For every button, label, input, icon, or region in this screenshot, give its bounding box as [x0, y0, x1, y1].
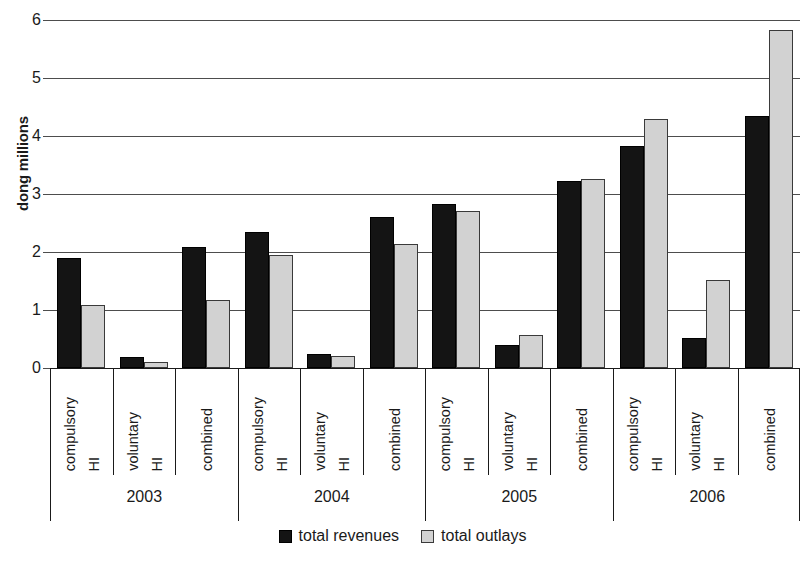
bar-outlays-8	[581, 179, 605, 368]
bar-revenues-9	[620, 146, 644, 368]
category-cell-2006-voluntary: voluntaryHI	[676, 369, 739, 475]
year-cell-2004: 2004	[239, 475, 427, 521]
bar-outlays-7	[519, 335, 543, 368]
category-label-primary: combined	[200, 408, 215, 471]
y-tick-mark-6	[43, 20, 50, 21]
category-cell-2003-voluntary: voluntaryHI	[114, 369, 177, 475]
y-tick-mark-2	[43, 252, 50, 253]
category-label-primary: voluntary	[688, 412, 703, 471]
bar-revenues-11	[745, 116, 769, 368]
bar-revenues-7	[495, 345, 519, 368]
y-tick-mark-4	[43, 136, 50, 137]
bar-outlays-10	[706, 280, 730, 368]
category-cell-2005-combined: combined	[551, 369, 614, 475]
category-cell-2004-voluntary: voluntaryHI	[301, 369, 364, 475]
category-label-secondary: HI	[87, 457, 102, 472]
category-label-primary: combined	[575, 408, 590, 471]
category-label-secondary: HI	[712, 457, 727, 472]
y-tick-mark-5	[43, 78, 50, 79]
category-cell-2003-combined: combined	[176, 369, 239, 475]
bar-revenues-3	[245, 232, 269, 368]
category-label-secondary: HI	[525, 457, 540, 472]
bar-revenues-1	[120, 357, 144, 368]
category-cell-2006-compulsory: compulsoryHI	[614, 369, 677, 475]
year-label: 2006	[689, 489, 725, 507]
year-cell-2003: 2003	[51, 475, 239, 521]
chart-legend: total revenuestotal outlays	[0, 528, 805, 544]
category-label-primary: voluntary	[126, 412, 141, 471]
category-label-band: compulsoryHIvoluntaryHIcombinedcompulsor…	[50, 368, 800, 475]
y-tick-label-2: 2	[32, 244, 41, 260]
category-label-primary: compulsory	[251, 397, 266, 471]
category-cell-2005-compulsory: compulsoryHI	[426, 369, 489, 475]
y-tick-label-5: 5	[32, 70, 41, 86]
y-tick-mark-0	[43, 368, 50, 369]
category-cell-2005-voluntary: voluntaryHI	[489, 369, 552, 475]
category-label-secondary: HI	[150, 457, 165, 472]
y-tick-label-0: 0	[32, 360, 41, 376]
year-label-band: 2003200420052006	[50, 475, 800, 521]
year-label: 2005	[501, 489, 537, 507]
legend-label: total revenues	[299, 528, 400, 544]
bar-outlays-5	[394, 244, 418, 368]
year-label: 2004	[314, 489, 350, 507]
legend-item-total-revenues[interactable]: total revenues	[279, 528, 400, 544]
bar-revenues-0	[57, 258, 81, 368]
y-tick-label-4: 4	[32, 128, 41, 144]
y-tick-label-1: 1	[32, 302, 41, 318]
year-cell-2006: 2006	[614, 475, 802, 521]
category-cell-2004-combined: combined	[364, 369, 427, 475]
category-label-primary: voluntary	[313, 412, 328, 471]
bar-outlays-3	[269, 255, 293, 368]
y-axis-title: dong millions	[14, 94, 31, 234]
bar-outlays-11	[769, 30, 793, 368]
bar-outlays-9	[644, 119, 668, 368]
bar-revenues-6	[432, 204, 456, 368]
bar-revenues-2	[182, 247, 206, 368]
year-cell-2005: 2005	[426, 475, 614, 521]
bar-outlays-2	[206, 300, 230, 368]
category-cell-2006-combined: combined	[739, 369, 802, 475]
legend-item-total-outlays[interactable]: total outlays	[421, 528, 526, 544]
category-label-primary: compulsory	[626, 397, 641, 471]
y-tick-mark-1	[43, 310, 50, 311]
y-tick-label-3: 3	[32, 186, 41, 202]
y-tick-mark-3	[43, 194, 50, 195]
bar-revenues-8	[557, 181, 581, 368]
legend-swatch-icon	[421, 530, 434, 543]
bar-outlays-0	[81, 305, 105, 368]
legend-swatch-icon	[279, 530, 292, 543]
bar-revenues-4	[307, 354, 331, 369]
bar-revenues-5	[370, 217, 394, 368]
bar-chart: dong millions 6543210 compulsoryHIvolunt…	[0, 0, 805, 562]
y-tick-label-6: 6	[32, 12, 41, 28]
bar-outlays-6	[456, 211, 480, 368]
bar-revenues-10	[682, 338, 706, 368]
category-label-primary: compulsory	[438, 397, 453, 471]
category-label-primary: compulsory	[63, 397, 78, 471]
plot-area: 6543210	[50, 20, 800, 368]
category-label-primary: voluntary	[501, 412, 516, 471]
category-label-secondary: HI	[462, 457, 477, 472]
category-cell-2003-compulsory: compulsoryHI	[51, 369, 114, 475]
year-label: 2003	[126, 489, 162, 507]
category-label-primary: combined	[763, 408, 778, 471]
category-label-primary: combined	[388, 408, 403, 471]
category-label-secondary: HI	[337, 457, 352, 472]
legend-label: total outlays	[441, 528, 526, 544]
bar-outlays-4	[331, 356, 355, 368]
bars-layer	[50, 20, 800, 368]
category-label-secondary: HI	[650, 457, 665, 472]
category-label-secondary: HI	[275, 457, 290, 472]
category-cell-2004-compulsory: compulsoryHI	[239, 369, 302, 475]
